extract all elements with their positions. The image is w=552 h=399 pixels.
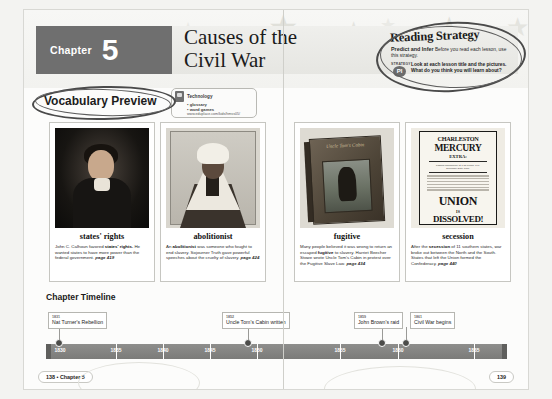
timeline-year-label: 1855 <box>334 347 345 353</box>
definition-pre: John C. Calhoun favored <box>55 244 105 249</box>
reading-strategy-title: Reading Strategy <box>390 27 480 45</box>
technology-header: Technology <box>175 91 212 102</box>
page-title-line1: Causes of the <box>184 26 384 49</box>
timeline-event-dot <box>244 339 252 347</box>
timeline-event-dot <box>402 339 410 347</box>
timeline-year-label: 1845 <box>204 347 215 353</box>
timeline-event-label: John Brown's raid <box>358 319 399 325</box>
broadside-text-line <box>427 181 489 183</box>
timeline-event-dot <box>378 339 386 347</box>
strategy-badge: STRATEGY PI <box>391 62 408 77</box>
chapter-word-label: Chapter <box>50 44 92 56</box>
vocabulary-term: states' rights <box>55 232 149 241</box>
broadside-union-word: UNION <box>423 194 493 209</box>
broadside-text-line <box>427 184 489 186</box>
definition-page-ref: page 434 <box>346 261 365 266</box>
chapter-timeline-heading: Chapter Timeline <box>46 292 116 302</box>
textbook-spread-screenshot: ★ ★ ★ ★ ★ ★ ★ ★ ★ Chapter 5 Causes of th… <box>0 0 552 399</box>
scanned-page-area: ★ ★ ★ ★ ★ ★ ★ ★ ★ Chapter 5 Causes of th… <box>24 10 528 389</box>
vocabulary-card-row: states' rights John C. Calhoun favored s… <box>24 122 528 282</box>
broadside-extra: EXTRA: <box>423 154 493 159</box>
uncle-toms-cabin-book-image: Uncle Tom's Cabin <box>300 128 394 228</box>
charleston-mercury-broadside-image: CHARLESTON MERCURY EXTRA: Passed unanimo… <box>411 128 505 228</box>
portrait-bonnet <box>197 143 229 164</box>
timeline-event-john-browns-raid: 1859 John Brown's raid <box>354 312 403 329</box>
timeline-year-label: 1850 <box>251 347 262 353</box>
technology-label: Technology <box>187 94 212 99</box>
computer-icon <box>175 91 184 102</box>
chapter-number: 5 <box>102 35 119 65</box>
vocabulary-preview-heading: Vocabulary Preview <box>44 94 157 108</box>
vocabulary-definition: John C. Calhoun favored states' rights. … <box>55 244 149 261</box>
technology-links: • glossary • word games www.eduplace.com… <box>187 102 240 118</box>
scan-artifact-curve <box>78 362 200 389</box>
vocabulary-card-secession: CHARLESTON MERCURY EXTRA: Passed unanimo… <box>405 122 511 282</box>
page-title: Causes of the Civil War <box>184 26 384 72</box>
timeline-event-label: Uncle Tom's Cabin written <box>226 319 286 325</box>
strategy-badge-letter: PI <box>393 66 406 77</box>
technology-box: Technology • glossary • word games www.e… <box>171 88 257 118</box>
strategy-badge-caption: STRATEGY <box>391 62 408 66</box>
page-gutter-divider <box>283 10 284 389</box>
vocabulary-term: secession <box>411 232 505 241</box>
broadside-text-line <box>427 189 489 191</box>
vocabulary-definition: An abolitionist was someone who fought t… <box>166 244 260 261</box>
vocabulary-card-states-rights: states' rights John C. Calhoun favored s… <box>49 122 155 282</box>
portrait-head <box>88 150 114 181</box>
definition-term: fugitive <box>318 250 334 255</box>
broadside-masthead: CHARLESTON <box>423 135 493 142</box>
broadside-text-line <box>427 175 489 177</box>
vocabulary-term: fugitive <box>300 232 394 241</box>
broadside-text-line <box>427 187 489 189</box>
timeline-event-stem <box>406 327 407 340</box>
timeline-year-label: 1830 <box>54 347 65 353</box>
portrait-cravat <box>94 178 110 191</box>
timeline-event-label: Civil War begins <box>414 319 451 325</box>
vocabulary-card-fugitive: Uncle Tom's Cabin fugitive Many people b… <box>294 122 400 282</box>
broadside-sheet: CHARLESTON MERCURY EXTRA: Passed unanimo… <box>419 131 497 225</box>
book-cover-illustration <box>322 159 373 213</box>
reading-strategy-body: Look at each lesson title and the pictur… <box>411 62 507 74</box>
reading-strategy-name: Predict and Infer <box>391 46 434 52</box>
page-number-left: 138 • Chapter 5 <box>38 371 93 383</box>
book-cover-title: Uncle Tom's Cabin <box>316 142 374 151</box>
two-page-spread: ★ ★ ★ ★ ★ ★ ★ ★ ★ Chapter 5 Causes of th… <box>24 10 528 389</box>
vocabulary-definition: Many people believed it was wrong to ret… <box>300 244 394 266</box>
reading-strategy-subtitle: Predict and Infer Before you read each l… <box>391 46 509 59</box>
technology-url: www.eduplace.com/kids/hmss05/ <box>187 112 240 117</box>
definition-term: states' rights. <box>105 244 133 249</box>
timeline-event-civil-war-begins: 1861 Civil War begins <box>410 312 455 329</box>
timeline-bar-cap-end <box>502 344 507 359</box>
broadside-title: MERCURY <box>423 143 493 153</box>
definition-term: abolitionist <box>173 244 196 249</box>
definition-pre: After the <box>411 244 429 249</box>
timeline-year-label: 1840 <box>157 347 168 353</box>
timeline-event-dot <box>55 339 63 347</box>
broadside-dissolved-word: DISSOLVED! <box>423 214 493 224</box>
broadside-body-text <box>423 175 493 191</box>
page-title-line2: Civil War <box>184 49 384 72</box>
page-number-right: 139 <box>489 371 514 383</box>
reading-strategy-box: Reading Strategy Predict and Infer Befor… <box>386 28 512 84</box>
timeline-year-label: 1835 <box>110 347 121 353</box>
vocabulary-definition: After the secession of 11 southern state… <box>411 244 505 266</box>
broadside-rule <box>429 161 487 162</box>
broadside-rule <box>429 172 487 173</box>
definition-page-ref: page 440 <box>438 261 457 266</box>
broadside-text-line <box>427 178 489 180</box>
book-cover: Uncle Tom's Cabin <box>309 135 385 225</box>
broadside-subtext-2: December 20th, 1860. <box>423 167 493 170</box>
timeline-event-nat-turners-rebellion: 1831 Nat Turner's Rebellion <box>48 312 107 329</box>
definition-pre: An <box>166 244 173 249</box>
scan-artifact-curve <box>324 366 476 389</box>
calhoun-portrait-image <box>55 128 149 228</box>
definition-page-ref: page 419 <box>95 255 114 260</box>
sojourner-truth-photo-image <box>166 128 260 228</box>
definition-term: secession <box>429 244 450 249</box>
definition-page-ref: page 424 <box>241 255 260 260</box>
timeline-bar-cap-start <box>46 344 51 359</box>
timeline-event-uncle-toms-cabin: 1852 Uncle Tom's Cabin written <box>222 312 290 329</box>
vocabulary-term: abolitionist <box>166 232 260 241</box>
chapter-tab: Chapter 5 <box>36 26 172 74</box>
vocabulary-card-abolitionist: abolitionist An abolitionist was someone… <box>160 122 266 282</box>
